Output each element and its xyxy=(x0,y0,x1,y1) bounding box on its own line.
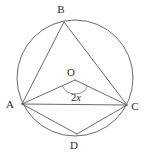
radius-oc xyxy=(75,80,127,105)
vertex-label-c: C xyxy=(131,100,138,112)
segment-ad xyxy=(22,104,77,134)
angle-label-variable: x xyxy=(75,92,81,103)
vertex-label-b: B xyxy=(57,3,64,15)
geometry-figure: B A C D O 2x xyxy=(0,0,149,153)
vertex-label-a: A xyxy=(6,98,14,110)
segment-ab xyxy=(22,22,64,104)
vertex-label-o: O xyxy=(67,66,75,78)
geometry-canvas: B A C D O 2x xyxy=(0,0,149,153)
angle-label-2x: 2x xyxy=(71,92,81,103)
vertex-label-d: D xyxy=(70,139,78,151)
segment-ac xyxy=(22,104,127,105)
circumcircle xyxy=(17,20,133,136)
